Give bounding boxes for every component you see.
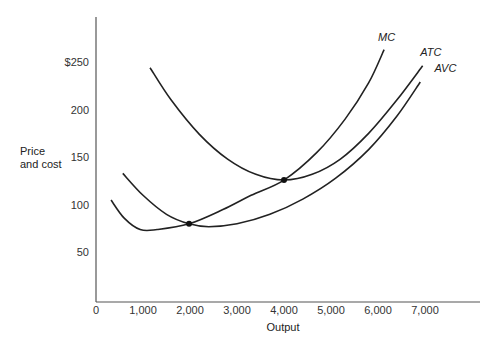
y-axis-title-line2: and cost: [20, 158, 62, 170]
x-tick-label: 3,000: [223, 304, 251, 316]
x-tick-label: 7,000: [411, 304, 439, 316]
y-tick-label: 50: [77, 246, 89, 258]
y-tick-label: 200: [71, 104, 89, 116]
y-tick-label: $250: [65, 56, 89, 68]
x-tick-label: 4,000: [270, 304, 298, 316]
avc-curve: [123, 82, 421, 227]
atc-label: ATC: [419, 46, 441, 58]
y-axis-title-line1: Price: [20, 145, 45, 157]
x-tick-label: 0: [93, 304, 99, 316]
x-tick-label: 1,000: [129, 304, 157, 316]
cost-curves-chart: 50100150200$250 01,0002,0003,0004,0005,0…: [0, 0, 486, 347]
intersection-dot: [281, 177, 287, 183]
y-tick-label: 150: [71, 151, 89, 163]
x-tick-label: 2,000: [176, 304, 204, 316]
axes: [96, 17, 480, 302]
x-axis-title: Output: [266, 321, 299, 333]
y-tick-label: 100: [71, 199, 89, 211]
y-tick-labels: 50100150200$250: [65, 56, 89, 258]
mc-label: MC: [378, 31, 395, 43]
intersection-dot: [186, 221, 192, 227]
curves: [111, 50, 423, 231]
atc-curve: [150, 66, 423, 180]
x-tick-label: 6,000: [364, 304, 392, 316]
x-tick-labels: 01,0002,0003,0004,0005,0006,0007,000: [93, 304, 439, 316]
curve-labels: MCATCAVC: [378, 31, 456, 73]
x-tick-label: 5,000: [317, 304, 345, 316]
avc-label: AVC: [433, 62, 456, 74]
